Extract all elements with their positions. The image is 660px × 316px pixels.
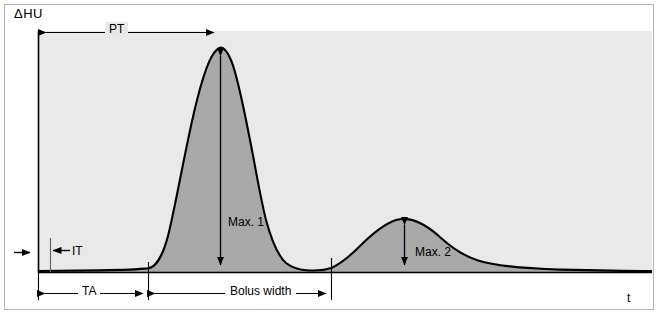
plot-background: [38, 31, 652, 273]
pt-label: PT: [105, 22, 128, 36]
ta-label: TA: [78, 284, 100, 298]
figure-root: ΔHU PT IT TA Bolus width Max. 1 Max. 2 t: [0, 0, 660, 316]
bolus-width-label: Bolus width: [225, 284, 296, 298]
it-label: IT: [72, 244, 83, 258]
x-axis-label: t: [627, 291, 630, 305]
max1-label: Max. 1: [228, 215, 264, 229]
chart-svg: [0, 0, 660, 316]
plot-area: [0, 0, 660, 316]
max2-label: Max. 2: [415, 245, 451, 259]
y-axis-label: ΔHU: [14, 6, 43, 21]
